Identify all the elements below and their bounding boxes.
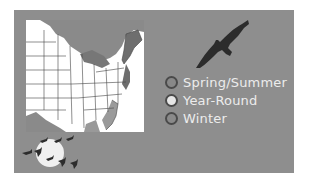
geese-moon-icon <box>20 133 90 173</box>
legend-label: Year-Round <box>183 93 258 108</box>
us-states-map-icon <box>26 20 144 132</box>
soaring-hawk-icon <box>194 18 250 70</box>
spring-summer-swatch-icon <box>165 76 178 89</box>
year-round-swatch-icon <box>165 94 178 107</box>
legend-item-spring-summer: Spring/Summer <box>165 73 287 91</box>
winter-swatch-icon <box>165 112 178 125</box>
range-map <box>26 20 144 132</box>
legend-item-winter: Winter <box>165 109 287 127</box>
legend-item-year-round: Year-Round <box>165 91 287 109</box>
legend-label: Winter <box>183 111 227 126</box>
season-legend: Spring/Summer Year-Round Winter <box>165 73 287 127</box>
legend-label: Spring/Summer <box>183 75 287 90</box>
